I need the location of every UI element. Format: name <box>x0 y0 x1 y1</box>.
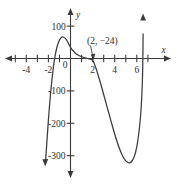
polynomial-curve <box>46 34 144 163</box>
x-tick-label--4: -4 <box>22 65 30 75</box>
y-tick-label-100: 100 <box>52 22 67 32</box>
y-axis-down-arrow-icon <box>68 171 74 178</box>
y-axis-group <box>67 8 75 178</box>
x-axis-left-arrow-icon <box>5 56 12 62</box>
point-annotation-label: (2, −24) <box>87 36 118 47</box>
curve-top-arrow-icon <box>140 14 146 21</box>
y-tick-label--300: -300 <box>48 151 66 161</box>
y-tick-label--200: -200 <box>48 119 66 129</box>
x-tick-label-0: 0 <box>63 60 68 70</box>
x-tick-label-2: 2 <box>90 65 95 75</box>
x-tick-label--2: -2 <box>44 65 52 75</box>
x-tick-label-4: 4 <box>112 65 117 75</box>
x-axis-right-arrow-icon <box>164 56 171 62</box>
y-axis-label: y <box>75 10 81 20</box>
x-tick-label-6: 6 <box>134 65 139 75</box>
polynomial-graph-figure: -4 -2 0 2 4 6 100 -100 -200 -300 x y (2,… <box>0 0 179 184</box>
y-axis-up-arrow-icon <box>68 8 74 15</box>
y-tick-label--100: -100 <box>48 86 66 96</box>
x-axis-label: x <box>160 45 166 55</box>
graph-canvas: -4 -2 0 2 4 6 100 -100 -200 -300 x y (2,… <box>0 0 179 184</box>
